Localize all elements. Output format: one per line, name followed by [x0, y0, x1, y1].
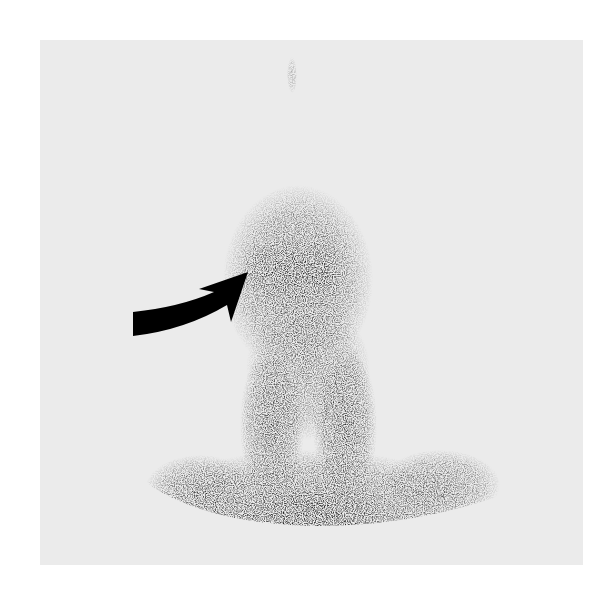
- scintigraphy-image: Anterior planar scan of head/neck region…: [40, 40, 583, 565]
- uptake-pattern: [40, 40, 583, 565]
